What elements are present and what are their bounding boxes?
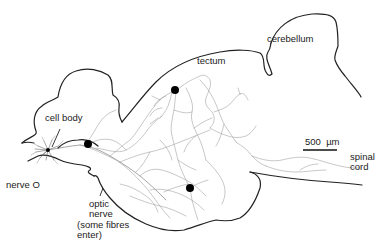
forebrain-lower-lip [22,142,34,143]
marker-tectum-upper [171,86,179,94]
cell-body-soma [46,148,50,152]
cerebellum-outline [271,14,361,97]
spinal-cord-label: spinal cord [350,152,375,172]
optic-nerve-leader [100,188,103,196]
optic-nerve-outline [28,155,94,176]
spinal-cord-outline [250,172,362,185]
marker-forebrain [84,140,92,148]
cerebellum-label: cerebellum [267,34,313,44]
optic-lobe-upper [58,140,98,148]
scale-bar-label: 500 µm [305,137,340,147]
optic-nerve-note-label: (some fibres enter) [77,220,129,240]
optic-nerve-label: optic nerve [89,199,113,219]
forebrain-outline [22,69,122,143]
nerve-o-label: nerve O [6,180,40,190]
cell-body-label: cell body [45,113,83,123]
brain-diagram [0,0,382,246]
marker-tectum-lower [186,184,194,192]
tectum-label: tectum [197,56,226,66]
markers [46,86,194,192]
neuron-fibres [31,75,360,220]
